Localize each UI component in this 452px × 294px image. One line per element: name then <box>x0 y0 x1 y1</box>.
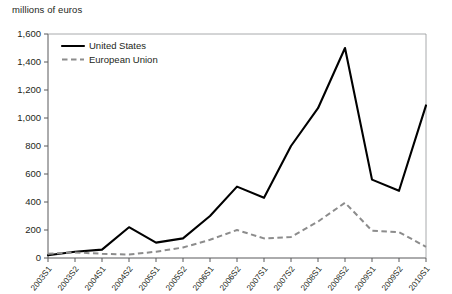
x-tick-label: 2008S1 <box>299 264 324 292</box>
x-tick-label: 2005S1 <box>137 264 162 292</box>
y-tick-label: 1,000 <box>17 112 41 123</box>
series-line-united-states <box>48 48 426 255</box>
legend-label-european-union: European Union <box>89 54 158 65</box>
x-tick-label: 2010S1 <box>407 264 432 292</box>
data-series-group <box>48 48 426 255</box>
plot-frame <box>48 34 426 258</box>
y-tick-label: 1,400 <box>17 56 41 67</box>
y-tick-label: 1,600 <box>17 28 41 39</box>
x-tick-label: 2006S1 <box>191 264 216 292</box>
x-axis-ticks: 2003S12003S22004S12004S22005S12005S22006… <box>29 258 432 292</box>
y-axis-ticks: 02004006008001,0001,2001,4001,600 <box>17 28 48 263</box>
x-tick-label: 2003S1 <box>29 264 54 292</box>
y-tick-label: 400 <box>25 196 41 207</box>
line-chart: millions of euros 02004006008001,0001,20… <box>0 0 452 294</box>
y-tick-label: 0 <box>36 252 41 263</box>
x-tick-label: 2007S2 <box>272 264 297 292</box>
chart-plot-area: 02004006008001,0001,2001,4001,600 2003S1… <box>0 0 452 294</box>
x-tick-label: 2004S2 <box>110 264 135 292</box>
y-tick-label: 600 <box>25 168 41 179</box>
x-tick-label: 2009S1 <box>353 264 378 292</box>
y-tick-label: 1,200 <box>17 84 41 95</box>
x-tick-label: 2006S2 <box>218 264 243 292</box>
x-tick-label: 2007S1 <box>245 264 270 292</box>
y-tick-label: 800 <box>25 140 41 151</box>
legend-label-united-states: United States <box>89 40 146 51</box>
chart-legend: United StatesEuropean Union <box>62 40 158 65</box>
x-tick-label: 2009S2 <box>380 264 405 292</box>
x-tick-label: 2004S1 <box>83 264 108 292</box>
x-tick-label: 2005S2 <box>164 264 189 292</box>
y-tick-label: 200 <box>25 224 41 235</box>
x-tick-label: 2003S2 <box>56 264 81 292</box>
x-tick-label: 2008S2 <box>326 264 351 292</box>
